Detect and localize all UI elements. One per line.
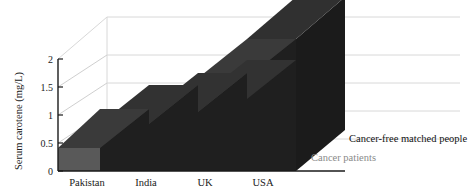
legend-label-cancer-patients: Cancer patients [311, 152, 376, 163]
x-label-pakistan: Pakistan [69, 177, 105, 188]
y-tick-label-1_5: 1.5 [41, 82, 54, 93]
x-label-uk: UK [197, 177, 213, 188]
x-label-india: India [135, 177, 157, 188]
y-tick-label-1: 1 [48, 110, 53, 121]
bar-group-pakistan [58, 85, 198, 171]
y-tick-label-2: 2 [48, 54, 53, 65]
y-tick-label-0: 0 [48, 166, 53, 177]
legend-label-cancer-free: Cancer-free matched people [349, 133, 467, 144]
y-tick-label-0_5: 0.5 [41, 138, 54, 149]
chart-svg: 2 1.5 1 0.5 0 Serum carotene (mg/L) Paki… [0, 0, 475, 196]
x-label-usa: USA [252, 177, 273, 188]
depth-line-2 [58, 17, 107, 59]
bar-pakistan-patients-front [58, 148, 100, 171]
depth-line-1_5 [58, 55, 107, 87]
y-axis-title: Serum carotene (mg/L) [13, 72, 25, 170]
chart-3d-bar: 2 1.5 1 0.5 0 Serum carotene (mg/L) Paki… [0, 0, 475, 196]
